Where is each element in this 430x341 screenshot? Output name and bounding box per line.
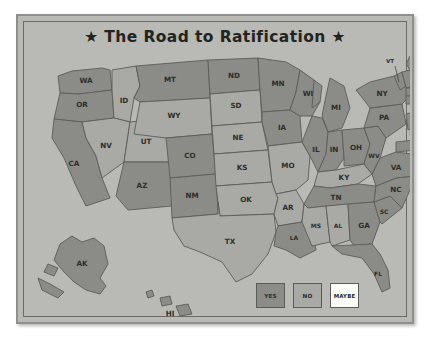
state-ok[interactable] xyxy=(216,182,278,216)
poster-panel: ★ The Road to Ratification ★ xyxy=(16,14,414,324)
state-nm[interactable] xyxy=(170,174,218,218)
state-md[interactable] xyxy=(396,140,410,152)
state-al[interactable] xyxy=(326,204,350,246)
state-wy[interactable] xyxy=(134,98,212,138)
state-wa[interactable] xyxy=(58,68,112,94)
page-title: ★ The Road to Ratification ★ xyxy=(18,28,412,46)
state-ia[interactable] xyxy=(262,110,302,146)
state-mo[interactable] xyxy=(268,142,310,194)
state-sd[interactable] xyxy=(210,90,262,126)
state-mt[interactable] xyxy=(134,60,210,102)
state-or[interactable] xyxy=(54,90,114,122)
state-ma[interactable] xyxy=(406,88,410,96)
state-nd[interactable] xyxy=(208,58,260,94)
legend-swatch-yes[interactable]: YES xyxy=(256,283,285,308)
label-hi: HI xyxy=(166,309,175,318)
state-az[interactable] xyxy=(116,162,172,210)
map-legend: YES NO MAYBE xyxy=(256,283,359,308)
legend-swatch-no[interactable]: NO xyxy=(293,283,322,308)
label-vt: VT xyxy=(386,58,394,64)
legend-swatch-maybe[interactable]: MAYBE xyxy=(330,283,359,308)
legend-label-maybe: MAYBE xyxy=(334,293,356,299)
state-ga[interactable] xyxy=(348,202,380,246)
state-hi[interactable] xyxy=(146,290,192,316)
state-ar[interactable] xyxy=(274,190,304,226)
state-co[interactable] xyxy=(166,134,216,178)
us-choropleth-map: WA OR CA ID NV UT AZ MT WY CO NM ND SD N… xyxy=(24,46,410,322)
state-ks[interactable] xyxy=(214,150,272,186)
legend-label-no: NO xyxy=(303,293,313,299)
state-ak[interactable] xyxy=(38,236,108,298)
state-nj[interactable] xyxy=(406,112,410,130)
state-ct[interactable] xyxy=(406,96,410,104)
state-ne[interactable] xyxy=(212,122,268,154)
legend-label-yes: YES xyxy=(264,293,277,299)
